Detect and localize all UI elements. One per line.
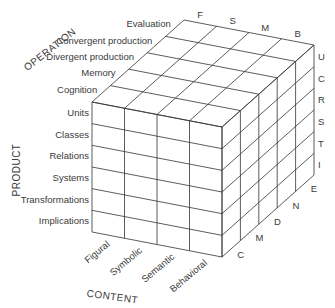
side-depth-line — [222, 45, 314, 127]
side-depth-line — [222, 175, 314, 257]
content-letter: B — [295, 28, 301, 39]
product-label: Transformations — [21, 194, 90, 205]
content-label: Symbolic — [107, 244, 144, 277]
product-letter: T — [318, 138, 324, 149]
top-width-line — [166, 36, 296, 61]
side-depth-line — [222, 88, 314, 170]
product-letter: C — [318, 73, 325, 84]
operation-label: Evaluation — [126, 18, 170, 29]
content-label: Behavioral — [168, 257, 209, 294]
top-width-line — [129, 69, 259, 94]
product-letter: U — [318, 51, 325, 62]
content-label: Semantic — [139, 251, 177, 285]
product-label: Relations — [49, 150, 89, 161]
operation-letter: E — [311, 183, 317, 194]
operation-label: Divergent production — [46, 51, 134, 62]
product-letter: I — [318, 159, 321, 170]
operation-letter: N — [292, 200, 299, 211]
side-depth-line — [222, 110, 314, 192]
operation-letter: C — [237, 249, 244, 260]
content-letter: M — [261, 22, 269, 33]
content-letter: F — [197, 9, 203, 20]
product-label: Units — [67, 107, 89, 118]
content-label: Figural — [82, 238, 111, 265]
product-label: Systems — [53, 172, 90, 183]
content-letter: S — [230, 15, 236, 26]
product-letter: S — [318, 116, 324, 127]
operation-label: Cognition — [57, 84, 97, 95]
top-depth-line — [157, 33, 249, 115]
intellect-cube: EvaluationConvergent productionDivergent… — [0, 0, 335, 308]
side-depth-line — [222, 132, 314, 214]
top-width-line — [147, 53, 277, 78]
product-letter: R — [318, 94, 325, 105]
product-label: Implications — [39, 215, 89, 226]
top-width-line — [110, 86, 240, 111]
product-axis-title: PRODUCT — [11, 144, 22, 197]
side-depth-line — [222, 153, 314, 235]
operation-letter: M — [256, 232, 264, 243]
operation-label: Memory — [81, 67, 116, 78]
operation-letter: D — [274, 216, 281, 227]
product-label: Classes — [55, 129, 89, 140]
operation-axis-title: OPERATION — [22, 26, 78, 73]
content-axis-title: CONTENT — [86, 287, 139, 305]
